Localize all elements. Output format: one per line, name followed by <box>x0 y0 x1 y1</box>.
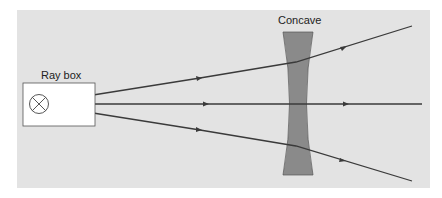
lens-label: Concave <box>278 14 321 26</box>
ray-box-label: Ray box <box>41 69 82 81</box>
lamp-icon <box>30 95 49 114</box>
ray-diagram: Ray box Concave <box>0 0 442 198</box>
